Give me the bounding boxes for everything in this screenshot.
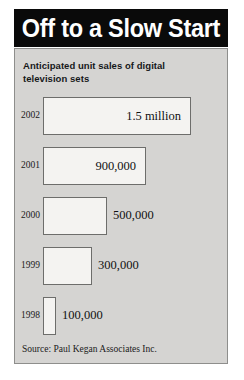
bar: 1.5 million [43,97,191,135]
bar [43,297,56,335]
bar: 900,000 [43,147,146,185]
chart-subtitle: Anticipated unit sales of digital televi… [23,60,211,85]
chart-figure: Off to a Slow Start Anticipated unit sal… [0,0,244,380]
bar-category-label: 1999 [21,260,40,270]
chart-title-banner: Off to a Slow Start [14,9,228,47]
page-title: Off to a Slow Start [20,9,221,47]
bar-category-label: 2000 [21,210,40,220]
bar-row: 1998100,000 [15,297,229,347]
bar-category-label: 2001 [21,160,40,170]
bar-value-label: 900,000 [95,159,136,174]
bar-row: 2000500,000 [15,197,229,247]
bar-value-label: 500,000 [113,208,154,223]
bar-value-label: 1.5 million [126,109,181,124]
bar [43,197,107,235]
bar-category-label: 1998 [21,310,40,320]
bar-value-label: 100,000 [62,308,103,323]
bar-category-label: 2002 [21,110,40,120]
bar [43,247,92,285]
bar-row: 1999300,000 [15,247,229,297]
bar-row: 20021.5 million [15,97,229,147]
bar-row: 2001900,000 [15,147,229,197]
chart-panel: Anticipated unit sales of digital televi… [14,48,228,364]
bar-rows: 20021.5 million2001900,0002000500,000199… [15,97,229,347]
bar-value-label: 300,000 [98,258,139,273]
chart-source-note: Source: Paul Kegan Associates Inc. [22,344,157,354]
